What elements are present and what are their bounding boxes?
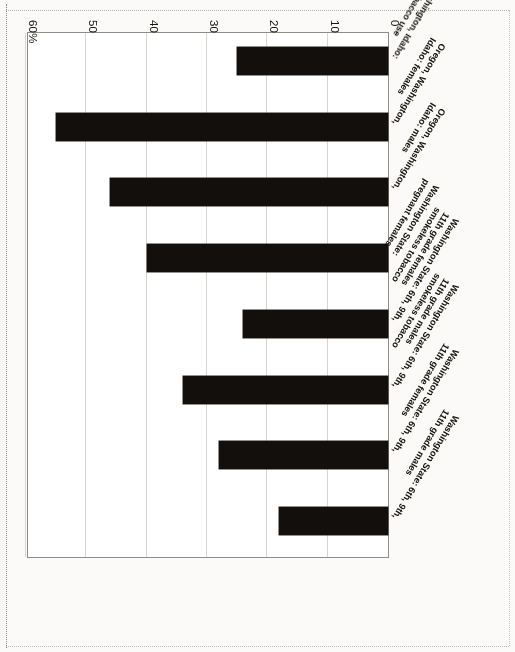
bar-series [28, 33, 388, 557]
scanned-page: 0102030405060% Washington State: 6th, 9t… [0, 0, 515, 652]
bar-row [28, 113, 388, 141]
bar[interactable] [110, 178, 388, 206]
bar[interactable] [56, 113, 388, 141]
tick-label-60pct: 60% [27, 20, 39, 44]
bar[interactable] [183, 376, 388, 404]
gridline-60 [25, 33, 26, 557]
bar-chart-figure: 0102030405060% Washington State: 6th, 9t… [0, 0, 515, 652]
bar[interactable] [219, 441, 388, 469]
bar-row [28, 441, 388, 469]
bar[interactable] [237, 47, 388, 75]
bar-row [28, 507, 388, 535]
bar-row [28, 178, 388, 206]
bar-row [28, 244, 388, 272]
bar-row [28, 47, 388, 75]
tick-label-50: 50 [87, 20, 99, 33]
bar[interactable] [147, 244, 388, 272]
tick-label-10: 10 [329, 20, 341, 33]
bar-row [28, 376, 388, 404]
tick-label-20: 20 [268, 20, 280, 33]
tick-label-30: 30 [208, 20, 220, 33]
tick-label-40: 40 [148, 20, 160, 33]
plot-area [27, 32, 389, 558]
bar[interactable] [279, 507, 388, 535]
bar-row [28, 310, 388, 338]
bar[interactable] [243, 310, 388, 338]
